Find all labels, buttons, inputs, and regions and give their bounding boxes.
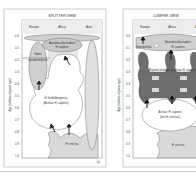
svg-text:0.5: 0.5	[15, 94, 19, 98]
label-heidelbergensis-2: (Archaic H. sapiens)	[43, 101, 68, 105]
splitter-panel: SPLITTER VIEW Europe Africa Asia Anatomi…	[4, 9, 106, 167]
region-europe: Europe	[140, 25, 150, 29]
label-archaic-2: (late H. erectus)	[160, 115, 180, 119]
svg-text:0.0: 0.0	[126, 34, 130, 38]
region-europe: Europe	[29, 25, 39, 29]
svg-text:0.0: 0.0	[15, 34, 19, 38]
region-africa: Africa	[58, 25, 66, 29]
svg-text:0.5: 0.5	[126, 94, 130, 98]
svg-text:0.8: 0.8	[126, 130, 130, 134]
svg-text:0.3: 0.3	[126, 70, 130, 74]
label-neanderthals: Neanderthals	[136, 45, 152, 49]
label-modern: Anatomically modern	[165, 40, 192, 44]
panel-tag: (a)	[97, 160, 100, 164]
label-modern-2: H. sapiens	[171, 45, 185, 49]
svg-text:1.0: 1.0	[126, 154, 130, 158]
label-erectus: H. erectus	[172, 143, 185, 147]
label-modern-2: H. sapiens	[55, 45, 69, 49]
svg-text:0.1: 0.1	[126, 46, 130, 50]
svg-text:0.4: 0.4	[15, 82, 19, 86]
region-asia: Asia	[195, 25, 196, 29]
svg-text:0.3: 0.3	[15, 70, 19, 74]
label-heidelbergensis: H. heidelbergensis	[44, 96, 68, 100]
svg-text:0.7: 0.7	[15, 118, 19, 122]
lumper-title: LUMPER VIEW	[153, 14, 179, 18]
lumper-panel: LUMPER VIEW Europe Africa Asia H. erectu…	[117, 9, 196, 167]
svg-text:0.4: 0.4	[126, 82, 130, 86]
svg-text:0.7: 0.7	[126, 118, 130, 122]
svg-text:0.6: 0.6	[15, 106, 19, 110]
region-asia: Asia	[86, 25, 92, 29]
splitter-title: SPLITTER VIEW	[48, 14, 76, 18]
label-neanderthal-2: neanderthalensis	[28, 58, 48, 62]
label-erectus: H. erectus	[66, 142, 79, 146]
svg-text:0.9: 0.9	[15, 142, 19, 146]
label-regional: Regional evolution of archaic H. sapiens	[149, 68, 196, 72]
svg-text:0.2: 0.2	[15, 58, 19, 62]
label-neanderthal: Homo	[35, 52, 42, 56]
svg-text:1.0: 1.0	[15, 154, 19, 158]
divider	[0, 171, 196, 172]
svg-text:0.9: 0.9	[126, 142, 130, 146]
svg-text:0.2: 0.2	[126, 58, 130, 62]
y-axis-label: Age (millions of years ago)	[117, 78, 121, 111]
figure: SPLITTER VIEW Europe Africa Asia Anatomi…	[0, 0, 196, 174]
y-axis-label: Age (millions of years ago)	[8, 78, 12, 111]
svg-text:0.1: 0.1	[15, 46, 19, 50]
region-africa: Africa	[168, 25, 176, 29]
svg-text:0.8: 0.8	[15, 130, 19, 134]
svg-text:0.6: 0.6	[126, 106, 130, 110]
label-archaic: Archaic H. sapiens	[158, 110, 182, 114]
